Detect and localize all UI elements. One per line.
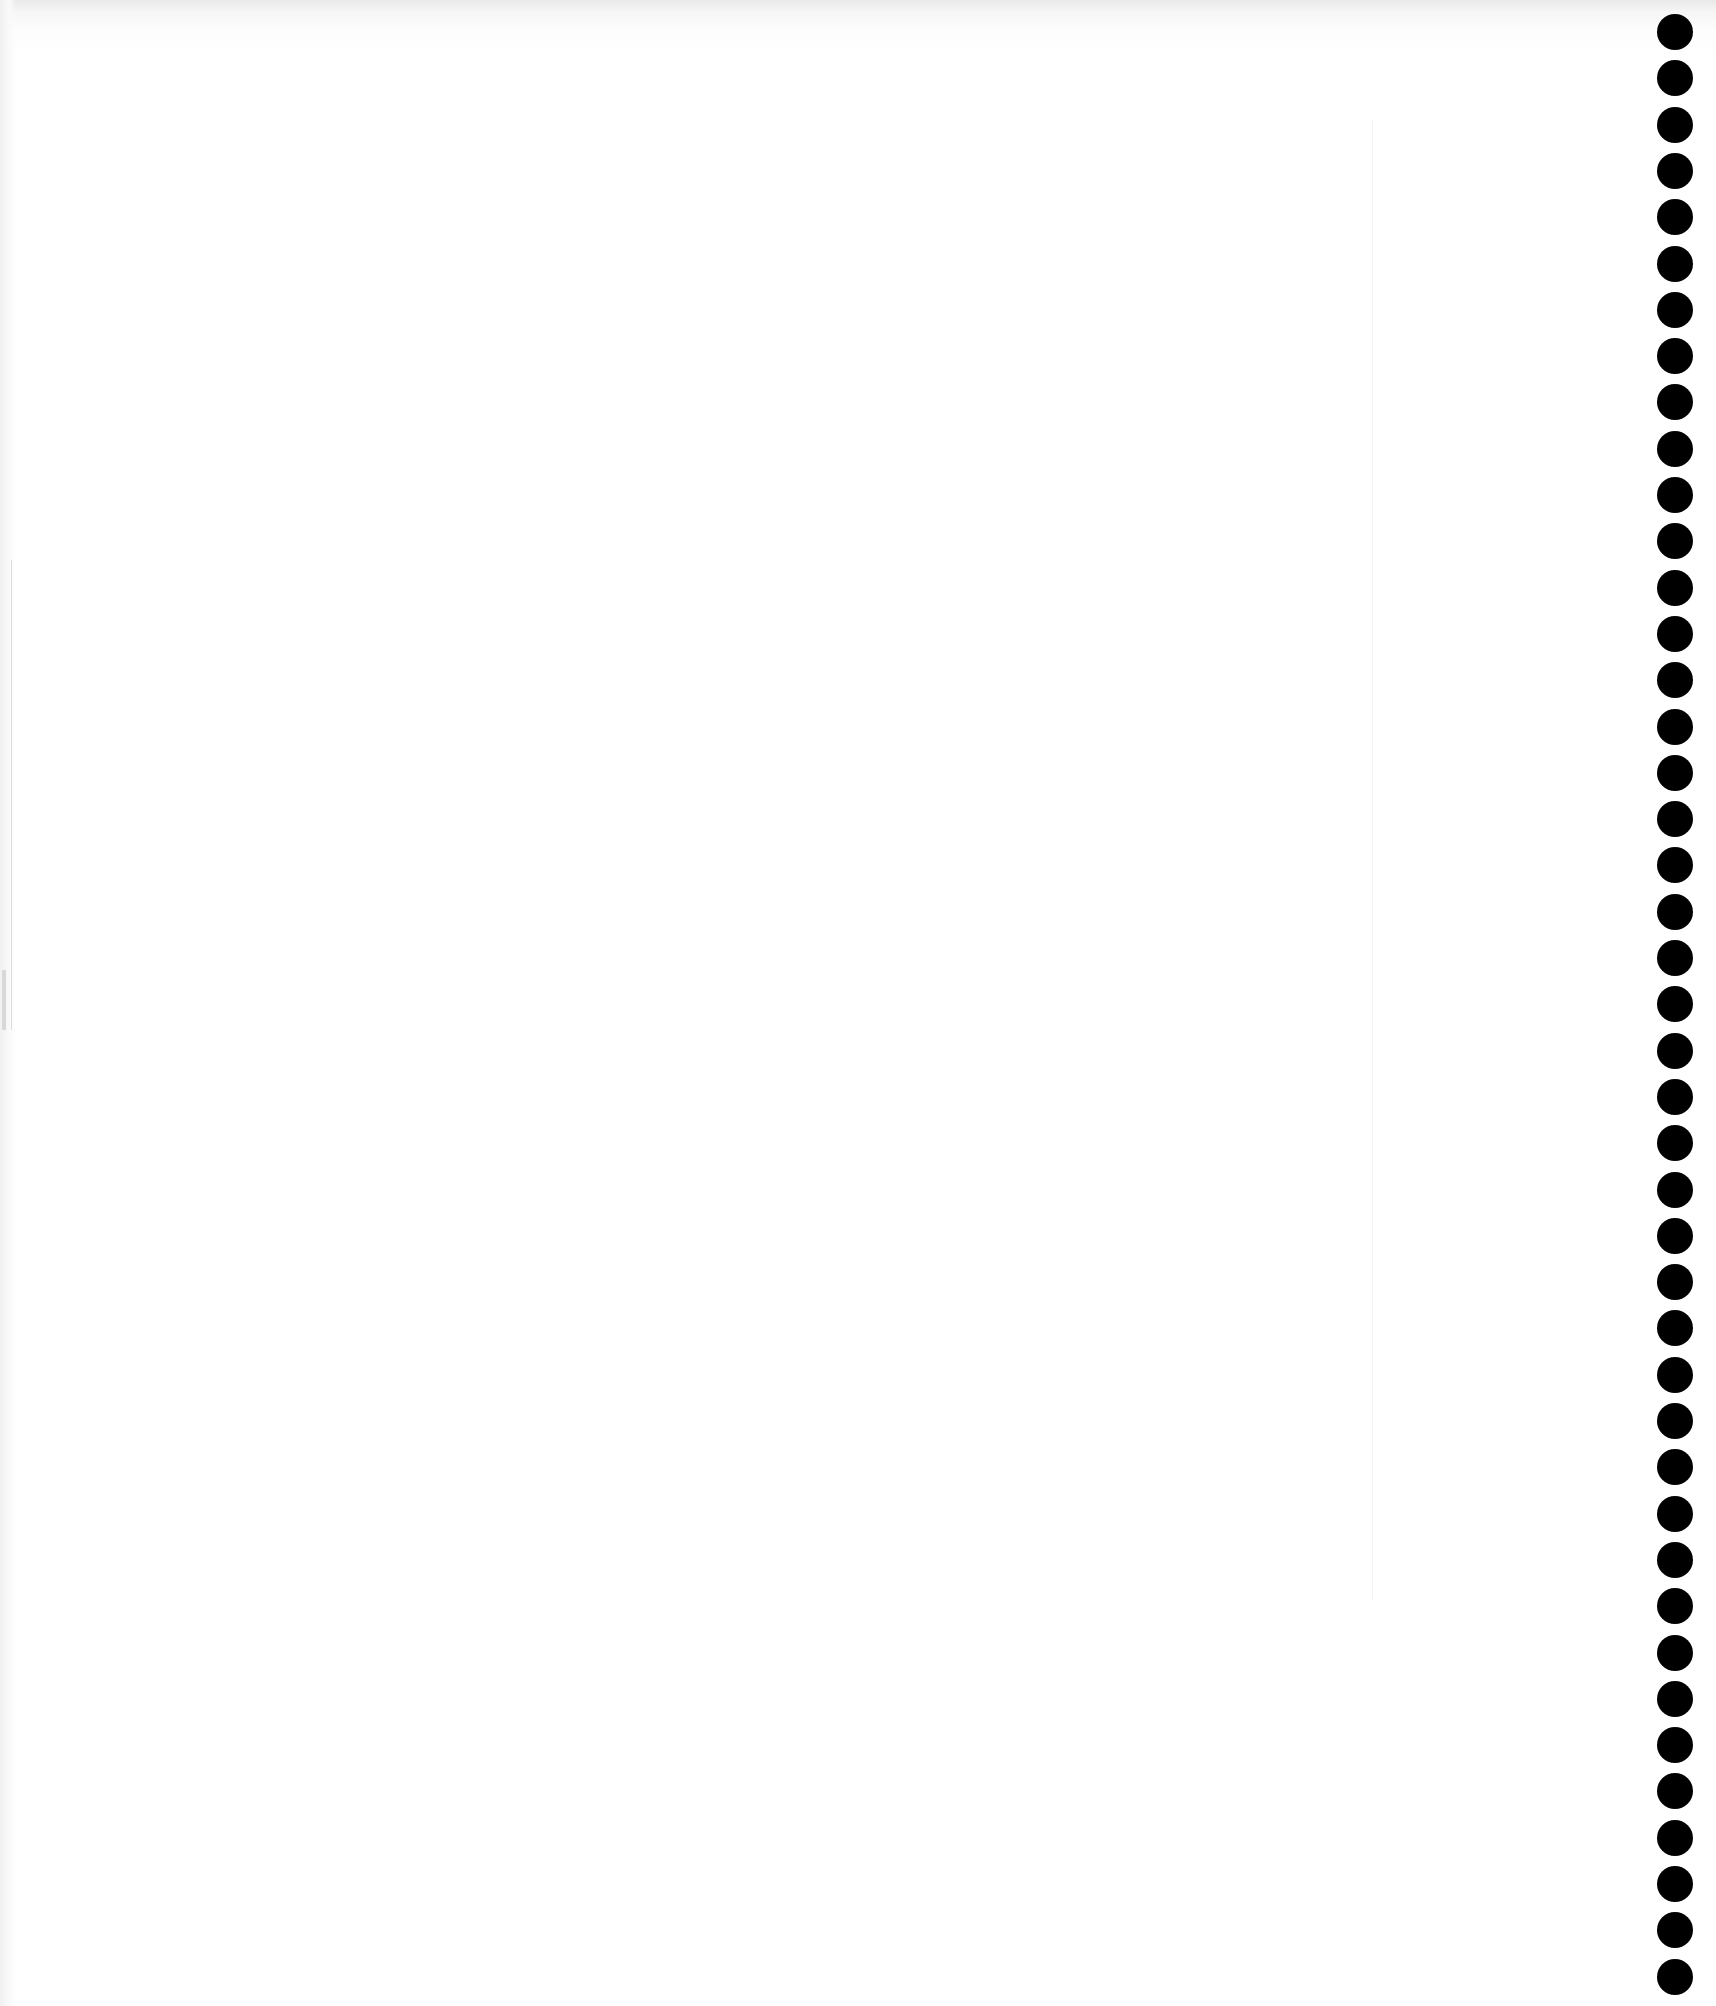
binding-hole: [1657, 477, 1693, 513]
binding-hole: [1657, 1912, 1693, 1948]
binding-hole: [1657, 384, 1693, 420]
binding-hole: [1657, 662, 1693, 698]
binding-hole: [1657, 1588, 1693, 1624]
binding-hole: [1657, 755, 1693, 791]
scanned-page: [0, 0, 1716, 2006]
binding-hole: [1657, 847, 1693, 883]
binding-hole: [1657, 940, 1693, 976]
binding-hole: [1657, 1125, 1693, 1161]
binding-hole: [1657, 986, 1693, 1022]
binding-hole: [1657, 60, 1693, 96]
binding-hole: [1657, 107, 1693, 143]
binding-hole: [1657, 153, 1693, 189]
binding-hole: [1657, 1449, 1693, 1485]
binding-hole: [1657, 431, 1693, 467]
binding-hole: [1657, 616, 1693, 652]
binding-hole: [1657, 801, 1693, 837]
binding-hole: [1657, 1264, 1693, 1300]
binding-hole: [1657, 523, 1693, 559]
bleed-through-header: [20, 40, 440, 96]
binding-hole: [1657, 1496, 1693, 1532]
binding-hole: [1657, 1727, 1693, 1763]
binding-hole: [1657, 246, 1693, 282]
binding-hole: [1657, 1959, 1693, 1995]
binding-hole: [1657, 1542, 1693, 1578]
binding-holes: [1657, 14, 1693, 1994]
binding-hole: [1657, 338, 1693, 374]
binding-hole: [1657, 1079, 1693, 1115]
binding-hole: [1657, 1357, 1693, 1393]
binding-hole: [1657, 709, 1693, 745]
binding-hole: [1657, 1310, 1693, 1346]
scan-artifact-mark: [2, 970, 6, 1030]
binding-hole: [1657, 1681, 1693, 1717]
binding-hole: [1657, 894, 1693, 930]
binding-hole: [1657, 1172, 1693, 1208]
binding-hole: [1657, 1033, 1693, 1069]
binding-hole: [1657, 1820, 1693, 1856]
binding-hole: [1657, 1218, 1693, 1254]
scan-artifact-line: [11, 560, 12, 1030]
binding-hole: [1657, 292, 1693, 328]
binding-hole: [1657, 570, 1693, 606]
binding-hole: [1657, 1635, 1693, 1671]
bleed-through-rule: [1372, 120, 1373, 1600]
binding-hole: [1657, 199, 1693, 235]
binding-hole: [1657, 1866, 1693, 1902]
binding-hole: [1657, 1403, 1693, 1439]
binding-hole: [1657, 1773, 1693, 1809]
binding-hole: [1657, 14, 1693, 50]
